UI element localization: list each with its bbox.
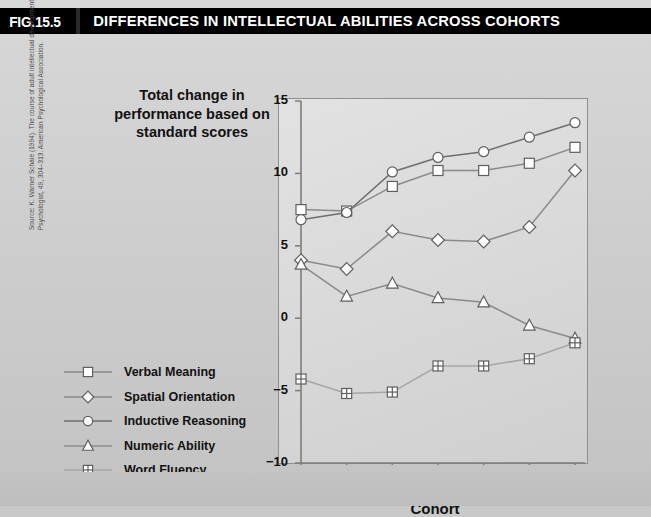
series-numeric-ability (295, 258, 581, 343)
figure-footer (0, 472, 651, 506)
source-citation: Source: K. Warner Schaie (1994). The cou… (28, 0, 45, 230)
legend-label: Inductive Reasoning (114, 414, 246, 428)
y-tick-label: 15 (252, 92, 288, 107)
y-tick-label: −10 (252, 454, 288, 469)
figure-title: DIFFERENCES IN INTELLECTUAL ABILITIES AC… (80, 12, 560, 30)
legend-item-inductive-reasoning: Inductive Reasoning (62, 409, 246, 434)
plot-svg (279, 99, 589, 465)
y-tick-label: −5 (252, 382, 288, 397)
legend-item-verbal-meaning: Verbal Meaning (62, 360, 246, 385)
figure-header: FIG.15.5 DIFFERENCES IN INTELLECTUAL ABI… (0, 8, 651, 34)
legend-item-numeric-ability: Numeric Ability (62, 434, 246, 459)
diamond-icon (62, 388, 114, 406)
legend-label: Numeric Ability (114, 439, 215, 453)
legend-item-spatial-orientation: Spatial Orientation (62, 385, 246, 410)
legend-label: Spatial Orientation (114, 390, 235, 404)
y-tick-label: 0 (252, 309, 288, 324)
plot-area (278, 98, 588, 464)
y-tick-label: 5 (252, 237, 288, 252)
y-tick-label: 10 (252, 164, 288, 179)
series-word-fluency (296, 338, 580, 399)
figure-body: Source: K. Warner Schaie (1994). The cou… (0, 34, 651, 472)
chart-title: Total change in performance based on sta… (112, 86, 272, 142)
square-icon (62, 363, 114, 381)
circle-icon (62, 412, 114, 430)
series-spatial-orientation (295, 164, 582, 275)
chart-legend: Verbal MeaningSpatial OrientationInducti… (62, 360, 246, 483)
triangle-icon (62, 437, 114, 455)
legend-label: Verbal Meaning (114, 365, 216, 379)
